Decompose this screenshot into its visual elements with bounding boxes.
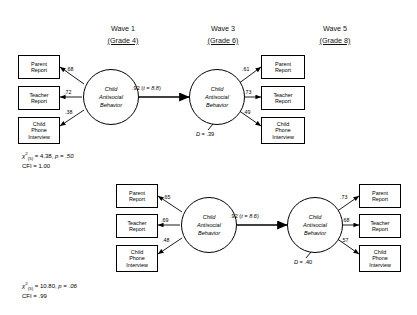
indicator-label-line2: Report [129, 196, 145, 202]
latent-label-line1: Child [309, 213, 322, 221]
sem-figure: Wave 1 (Grade 4) Wave 3 (Grade 6) Wave 5… [0, 0, 417, 315]
latent-circle-wave5: Child Antisocial Behavior [287, 197, 343, 253]
indicator-box-child-phone-interview-w5: Child Phone Interview [359, 245, 401, 272]
latent-label-line3: Behavior [198, 229, 220, 237]
loading-coef-w3-parent-top: .61 [242, 66, 249, 72]
latent-label-line2: Antisocial [197, 221, 221, 229]
fit-chi-value-top: 4.38 [40, 153, 52, 159]
indicator-label-line2: Report [129, 226, 145, 232]
disturbance-symbol: D [196, 131, 200, 137]
indicator-box-child-phone-interview-w1: Child Phone Interview [18, 117, 60, 144]
fit-statistics-top: χ2(5) = 4.38, p = .50 CFI = 1.00 [22, 152, 74, 171]
latent-label-line3: Behavior [206, 101, 228, 109]
loading-coef-w3-phone-top: .49 [243, 109, 250, 115]
loading-coef-w5-parent: .73 [340, 194, 347, 200]
disturbance-symbol: D [294, 259, 298, 265]
latent-circle-wave1: Child Antisocial Behavior [83, 69, 139, 125]
latent-label-line1: Child [105, 85, 118, 93]
fit-chi-square-line-top: χ2(5) = 4.38, p = .50 [22, 152, 74, 162]
structural-path-coefficient: .92 [132, 85, 140, 91]
indicator-label-line2: Report [275, 67, 291, 73]
latent-label-line2: Antisocial [205, 93, 229, 101]
wave-header-1-title: Wave 1 [111, 24, 135, 33]
loading-coef-w5-phone: .57 [341, 237, 348, 243]
wave-header-1-grade: (Grade 4) [78, 36, 168, 46]
wave-header-2-title: Wave 3 [211, 24, 235, 33]
indicator-box-child-phone-interview-w3-bottom: Child Phone Interview [116, 245, 158, 272]
indicator-box-parent-report-w3-top: Parent Report [261, 55, 305, 79]
structural-path-t: t = 8.8 [143, 85, 159, 91]
latent-label-line2: Antisocial [303, 221, 327, 229]
indicator-label-line3: Interview [126, 262, 148, 268]
latent-label-line2: Antisocial [99, 93, 123, 101]
indicator-box-parent-report-w5: Parent Report [359, 184, 401, 208]
latent-label-line1: Child [211, 85, 224, 93]
loading-coef-w5-teacher: .68 [342, 217, 349, 223]
indicator-box-parent-report-w1: Parent Report [18, 55, 60, 79]
loading-coef-w3b-parent: .65 [163, 194, 170, 200]
indicator-label-line3: Interview [28, 134, 50, 140]
loading-coef-w3-teacher-top: .73 [244, 89, 251, 95]
wave-header-3-title: Wave 5 [323, 24, 347, 33]
indicator-box-teacher-report-w5: Teacher Report [359, 214, 401, 238]
indicator-label-line2: Report [31, 67, 47, 73]
latent-circle-wave3-bottom: Child Antisocial Behavior [181, 197, 237, 253]
indicator-label-line3: Interview [369, 262, 391, 268]
indicator-label-line3: Interview [272, 134, 294, 140]
wave-header-1: Wave 1 (Grade 4) [78, 24, 168, 45]
loading-coef-w3b-phone: .48 [162, 237, 169, 243]
wave-header-3: Wave 5 (Grade 8) [290, 24, 380, 45]
indicator-box-teacher-report-w3-bottom: Teacher Report [116, 214, 158, 238]
loading-coef-w1-parent: .68 [66, 66, 73, 72]
structural-path-label-bottom: .92 (t = 8.6) [230, 213, 259, 219]
fit-chi-df-top: (5) [28, 156, 33, 161]
fit-cfi-line-top: CFI = 1.00 [22, 162, 74, 172]
latent-label-line3: Behavior [304, 229, 326, 237]
loading-coef-w1-teacher: .72 [64, 89, 71, 95]
fit-chi-value-bottom: 10.80 [40, 283, 55, 289]
indicator-box-parent-report-w3-bottom: Parent Report [116, 184, 158, 208]
indicator-label-line2: Report [372, 196, 388, 202]
fit-p-value-top: p = .50 [55, 153, 74, 159]
fit-p-value-bottom: p = .06 [58, 283, 77, 289]
disturbance-label-top: D = .39 [196, 131, 214, 137]
structural-path-t: t = 8.6 [241, 213, 257, 219]
fit-chi-df-bottom: (5) [28, 286, 33, 291]
disturbance-value: .39 [206, 131, 214, 137]
disturbance-value: .40 [304, 259, 312, 265]
disturbance-label-bottom: D = .40 [294, 259, 312, 265]
indicator-label-line2: Report [372, 226, 388, 232]
loading-coef-w1-phone: .38 [65, 109, 72, 115]
indicator-label-line2: Report [275, 98, 291, 104]
latent-label-line1: Child [203, 213, 216, 221]
fit-cfi-line-bottom: CFI = .99 [22, 292, 77, 302]
wave-header-3-grade: (Grade 8) [290, 36, 380, 46]
structural-path-label-top: .92 (t = 8.8) [132, 85, 161, 91]
structural-path-coefficient: .92 [230, 213, 238, 219]
fit-statistics-bottom: χ2(5) = 10.80, p = .06 CFI = .99 [22, 282, 77, 301]
indicator-box-child-phone-interview-w3-top: Child Phone Interview [261, 117, 305, 144]
wave-header-2: Wave 3 (Grade 6) [178, 24, 268, 45]
indicator-label-line2: Report [31, 98, 47, 104]
wave-header-2-grade: (Grade 6) [178, 36, 268, 46]
indicator-box-teacher-report-w3-top: Teacher Report [261, 86, 305, 110]
latent-label-line3: Behavior [100, 101, 122, 109]
latent-circle-wave3-top: Child Antisocial Behavior [189, 69, 245, 125]
fit-chi-square-line-bottom: χ2(5) = 10.80, p = .06 [22, 282, 77, 292]
indicator-box-teacher-report-w1: Teacher Report [18, 86, 60, 110]
loading-coef-w3b-teacher: .69 [161, 217, 168, 223]
